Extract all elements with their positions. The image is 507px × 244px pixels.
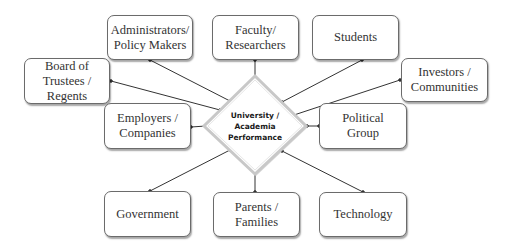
node-political: Political Group (319, 103, 407, 149)
node-investors: Investors / Communities (401, 58, 488, 102)
node-political-label: Political Group (342, 111, 384, 141)
node-employers-label: Employers / Companies (117, 111, 178, 141)
node-board-label: Board of Trustees / Regents (43, 59, 92, 104)
node-students-label: Students (334, 30, 377, 45)
node-government-label: Government (116, 207, 178, 222)
node-parents-label: Parents / Families (235, 200, 278, 230)
node-technology: Technology (319, 192, 407, 237)
node-board: Board of Trustees / Regents (24, 58, 110, 104)
node-administrators: Administrators/ Policy Makers (107, 15, 193, 60)
node-government: Government (104, 191, 191, 237)
node-faculty-label: Faculty/ Researchers (225, 23, 285, 53)
node-students: Students (312, 15, 399, 60)
node-employers: Employers / Companies (104, 103, 191, 149)
node-administrators-label: Administrators/ Policy Makers (111, 23, 189, 53)
node-investors-label: Investors / Communities (411, 65, 478, 95)
node-faculty: Faculty/ Researchers (212, 15, 299, 60)
node-parents: Parents / Families (213, 192, 300, 237)
node-technology-label: Technology (334, 207, 393, 222)
center-label: University / Academia Performance (203, 76, 307, 176)
